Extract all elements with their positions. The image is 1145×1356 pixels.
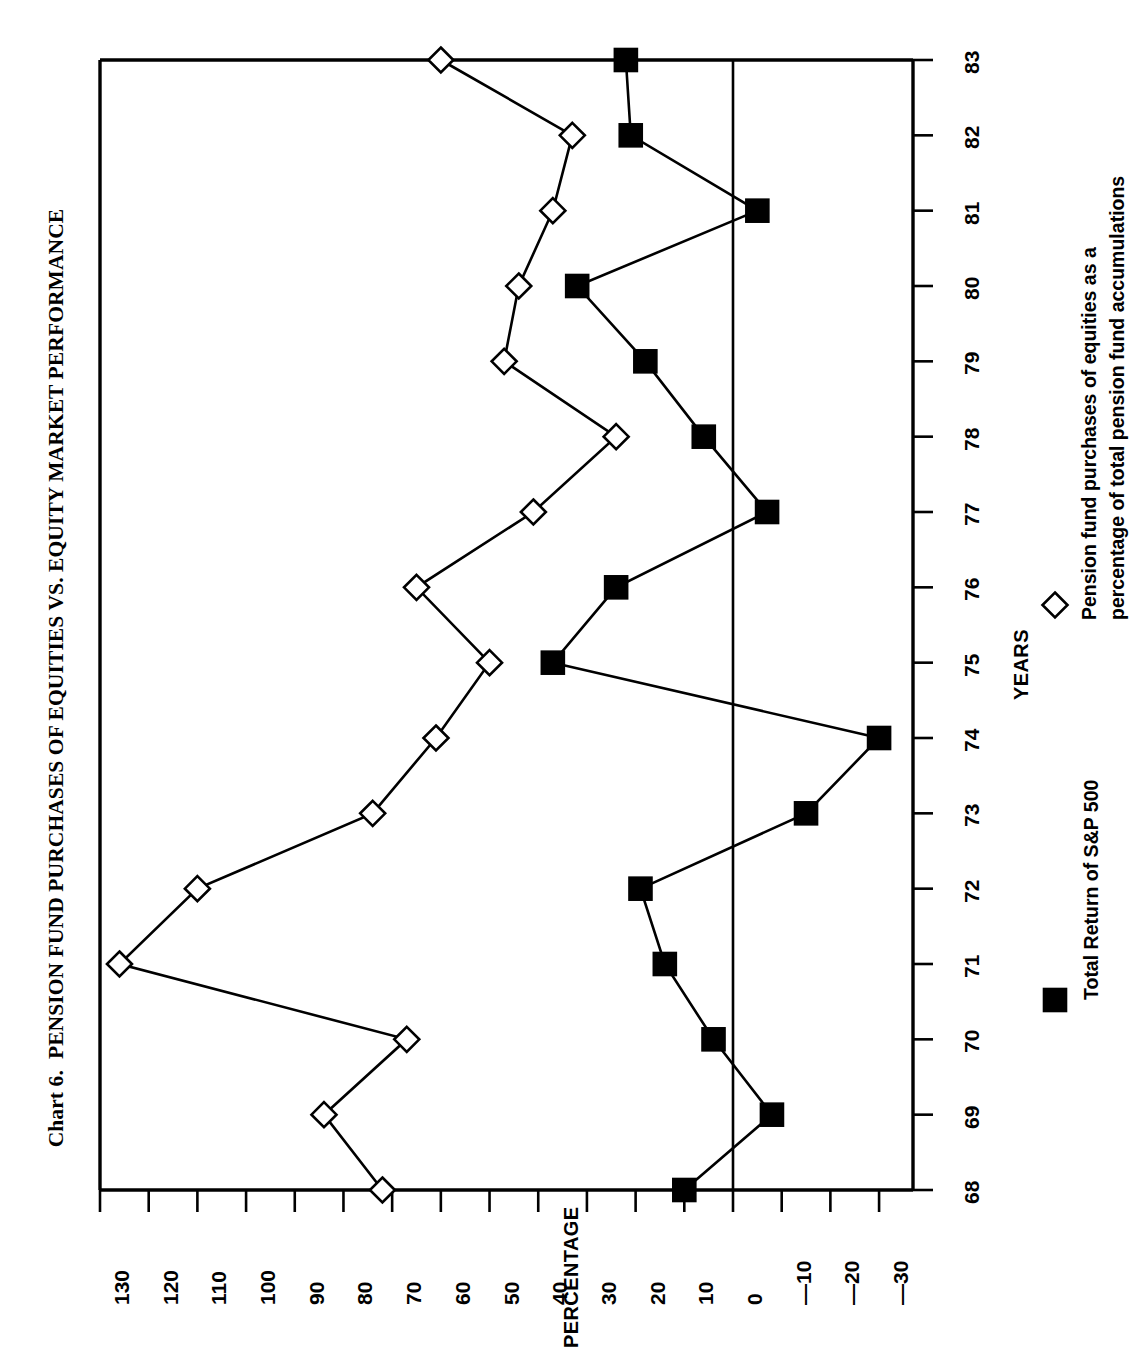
chart-page: Chart 6. PENSION FUND PURCHASES OF EQUIT… (0, 0, 1145, 1356)
x-tick-label: 73 (960, 804, 984, 827)
x-tick-label: 81 (960, 201, 984, 224)
data-point-marker (673, 1179, 696, 1202)
x-tick-label: 68 (960, 1181, 984, 1204)
legend-marker-filled-square (1044, 989, 1067, 1012)
data-point-marker (428, 48, 453, 73)
x-tick-label: 83 (960, 51, 984, 74)
data-point-marker (492, 349, 517, 374)
y-tick-label: 60 (451, 1282, 475, 1305)
x-tick-label: 74 (960, 729, 984, 752)
legend-marker-open-diamond (1043, 593, 1068, 618)
y-tick-label: —30 (889, 1261, 913, 1305)
x-tick-label: 77 (960, 503, 984, 526)
data-point-marker (760, 1103, 783, 1126)
legend-label-pension-line1: Pension fund purchases of equities as a (1076, 247, 1104, 620)
x-tick-label: 71 (960, 955, 984, 978)
legend-label-pension-line2: percentage of total pension fund accumul… (1104, 176, 1132, 620)
data-point-marker (614, 49, 637, 72)
data-point-marker (560, 123, 585, 148)
y-tick-label: 30 (597, 1282, 621, 1305)
y-tick-label: 50 (500, 1282, 524, 1305)
y-tick-label: 70 (402, 1282, 426, 1305)
x-tick-label: 78 (960, 427, 984, 450)
data-point-marker (702, 1028, 725, 1051)
data-point-marker (605, 576, 628, 599)
data-point-marker (653, 953, 676, 976)
y-tick-label: 130 (110, 1270, 134, 1305)
data-point-marker (868, 727, 891, 750)
y-tick-label: —10 (792, 1261, 816, 1305)
y-tick-label: 20 (646, 1282, 670, 1305)
y-tick-label: 90 (305, 1282, 329, 1305)
x-tick-label: 79 (960, 352, 984, 375)
legend-label-sp500: Total Return of S&P 500 (1078, 780, 1106, 1000)
y-tick-label: 0 (743, 1293, 767, 1305)
x-tick-label: 75 (960, 653, 984, 676)
x-tick-label: 69 (960, 1105, 984, 1128)
x-tick-label: 70 (960, 1030, 984, 1053)
data-point-marker (629, 877, 652, 900)
x-tick-label: 76 (960, 578, 984, 601)
x-tick-label: 72 (960, 879, 984, 902)
y-tick-label: 100 (256, 1270, 280, 1305)
data-point-marker (506, 274, 531, 299)
data-point-marker (634, 350, 657, 373)
data-point-marker (566, 275, 589, 298)
y-tick-label: 110 (207, 1271, 231, 1305)
y-axis-title: PERCENTAGE (560, 1207, 583, 1348)
data-point-marker (540, 198, 565, 223)
x-tick-label: 80 (960, 277, 984, 300)
data-point-marker (795, 802, 818, 825)
data-point-marker (746, 199, 769, 222)
y-tick-label: 80 (353, 1282, 377, 1305)
data-point-marker (692, 425, 715, 448)
y-tick-label: 10 (694, 1282, 718, 1305)
y-tick-label: 120 (159, 1270, 183, 1305)
x-tick-label: 82 (960, 126, 984, 149)
data-point-marker (756, 501, 779, 524)
x-axis-title: YEARS (1010, 629, 1033, 700)
data-point-marker (619, 124, 642, 147)
data-point-marker (541, 651, 564, 674)
y-tick-label: —20 (840, 1261, 864, 1305)
